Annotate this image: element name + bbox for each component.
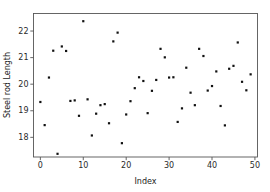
data-point bbox=[177, 121, 179, 123]
data-point bbox=[202, 55, 204, 57]
data-point bbox=[69, 100, 71, 102]
data-point bbox=[104, 103, 106, 105]
x-tick-label: 10 bbox=[78, 161, 88, 170]
plot-canvas: 01020304050 1819202122 Index Steel rod L… bbox=[0, 0, 270, 192]
data-point bbox=[117, 32, 119, 34]
x-axis-ticks: 01020304050 bbox=[38, 157, 260, 170]
data-point bbox=[232, 65, 234, 67]
data-point bbox=[48, 76, 50, 78]
data-point bbox=[185, 67, 187, 69]
data-point bbox=[189, 92, 191, 94]
data-point bbox=[211, 85, 213, 87]
data-point bbox=[245, 89, 247, 91]
data-point bbox=[220, 105, 222, 107]
data-point bbox=[207, 89, 209, 91]
y-tick-label: 20 bbox=[18, 80, 28, 89]
data-point bbox=[86, 98, 88, 100]
y-tick-label: 18 bbox=[18, 133, 28, 142]
data-point bbox=[108, 122, 110, 124]
y-tick-label: 19 bbox=[18, 106, 28, 115]
data-point bbox=[194, 104, 196, 106]
data-point bbox=[74, 99, 76, 101]
data-point bbox=[159, 48, 161, 50]
data-point bbox=[61, 45, 63, 47]
data-point bbox=[56, 153, 58, 155]
x-tick-label: 30 bbox=[164, 161, 174, 170]
data-point bbox=[99, 104, 101, 106]
data-point bbox=[215, 70, 217, 72]
data-point bbox=[125, 113, 127, 115]
data-point bbox=[91, 134, 93, 136]
data-point bbox=[181, 107, 183, 109]
data-point bbox=[224, 124, 226, 126]
scatter-plot-figure: 01020304050 1819202122 Index Steel rod L… bbox=[0, 0, 270, 192]
data-point bbox=[241, 81, 243, 83]
data-point bbox=[228, 68, 230, 70]
data-point bbox=[142, 80, 144, 82]
data-point bbox=[121, 142, 123, 144]
data-point bbox=[147, 112, 149, 114]
x-tick-label: 50 bbox=[250, 161, 260, 170]
data-points-layer bbox=[39, 20, 251, 155]
data-point bbox=[129, 100, 131, 102]
x-tick-label: 0 bbox=[38, 161, 43, 170]
data-point bbox=[65, 50, 67, 52]
x-tick-label: 40 bbox=[207, 161, 217, 170]
data-point bbox=[155, 79, 157, 81]
y-tick-label: 21 bbox=[18, 53, 28, 62]
x-tick-label: 20 bbox=[121, 161, 131, 170]
data-point bbox=[250, 73, 252, 75]
data-point bbox=[95, 113, 97, 115]
data-point bbox=[164, 56, 166, 58]
data-point bbox=[198, 48, 200, 50]
data-point bbox=[237, 41, 239, 43]
y-axis-ticks: 1819202122 bbox=[18, 27, 33, 142]
data-point bbox=[44, 124, 46, 126]
data-point bbox=[172, 76, 174, 78]
data-point bbox=[82, 20, 84, 22]
data-point bbox=[138, 76, 140, 78]
data-point bbox=[151, 90, 153, 92]
data-point bbox=[52, 50, 54, 52]
data-point bbox=[39, 101, 41, 103]
plot-frame bbox=[34, 14, 258, 158]
x-axis-label: Index bbox=[134, 177, 156, 186]
y-tick-label: 22 bbox=[18, 27, 28, 36]
data-point bbox=[78, 115, 80, 117]
data-point bbox=[134, 87, 136, 89]
data-point bbox=[112, 40, 114, 42]
data-point bbox=[168, 76, 170, 78]
y-axis-label: Steel rod Length bbox=[3, 52, 12, 118]
